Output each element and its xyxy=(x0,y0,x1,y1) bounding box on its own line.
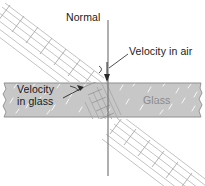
normal-label: Normal xyxy=(66,12,100,24)
velocity-in-air-label: Velocity in air xyxy=(129,46,192,58)
velocity-in-air-arrowhead xyxy=(104,74,110,82)
angle-of-incidence-arc xyxy=(99,66,102,73)
velocity-in-glass-label: Velocity in glass xyxy=(17,84,54,107)
glass-label: Glass xyxy=(143,95,170,107)
velocity-in-glass-label-line2: in glass xyxy=(17,96,54,108)
emergent-beam-rays xyxy=(102,115,205,186)
velocity-in-air-leader xyxy=(109,54,128,68)
glass-left-edge xyxy=(3,83,6,117)
refraction-diagram: Normal Velocity in air Velocity in glass… xyxy=(0,0,205,186)
velocity-in-glass-label-line1: Velocity xyxy=(17,84,54,96)
emergent-beam xyxy=(102,115,205,186)
